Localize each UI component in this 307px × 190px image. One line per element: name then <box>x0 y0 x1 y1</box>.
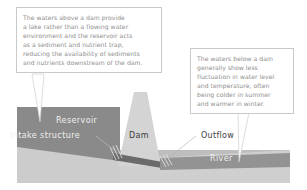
label-dam: Dam <box>129 131 149 140</box>
callout-above-dam-text: The waters above a dam provide a lake ra… <box>23 13 155 68</box>
callout-below-dam: The waters below a dam generally show le… <box>190 48 294 114</box>
label-river: River <box>210 154 233 163</box>
label-outflow: Outflow <box>201 131 234 140</box>
label-reservoir: Reservoir <box>56 116 97 125</box>
callout-below-dam-text: The waters below a dam generally show le… <box>197 54 287 109</box>
label-intake-structure: Intake structure <box>10 131 80 140</box>
callout-above-dam: The waters above a dam provide a lake ra… <box>16 7 162 73</box>
dam-structure <box>118 92 161 166</box>
diagram-canvas: The waters above a dam provide a lake ra… <box>0 0 307 190</box>
